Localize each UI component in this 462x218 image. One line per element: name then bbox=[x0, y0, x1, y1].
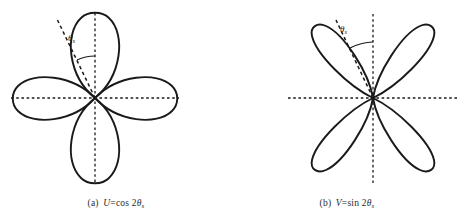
rose-petal-lower-right bbox=[373, 98, 434, 171]
caption-variable-a: U bbox=[101, 198, 110, 208]
angle-ray-dashed bbox=[57, 19, 95, 98]
rose-petal-lower-left bbox=[312, 98, 373, 171]
panel-b-sin: θs (b) V=sin 2θs bbox=[232, 0, 462, 218]
caption-theta-sub-b: s bbox=[372, 202, 375, 210]
theta-s-label-panel-b: θs bbox=[340, 24, 347, 35]
caption-variable-b: V bbox=[334, 198, 342, 208]
angle-arc bbox=[350, 42, 373, 48]
theta-subscript: s bbox=[72, 37, 75, 44]
polar-rose-cos-plot bbox=[0, 0, 232, 200]
caption-panel-b: (b) V=sin 2θs bbox=[232, 198, 462, 210]
theta-s-label-panel-a: θs bbox=[68, 33, 75, 44]
angle-arc bbox=[77, 56, 95, 60]
caption-function-b: sin bbox=[347, 198, 359, 208]
caption-panel-a: (a) U=cos 2θs bbox=[0, 198, 232, 210]
polar-rose-sin-plot bbox=[232, 0, 462, 200]
rose-petal-upper-right bbox=[373, 25, 434, 98]
caption-tag-b: (b) bbox=[320, 198, 332, 208]
theta-subscript: s bbox=[344, 28, 347, 35]
caption-function-a: cos bbox=[116, 198, 129, 208]
figure-root: θs (a) U=cos 2θs bbox=[0, 0, 462, 218]
caption-tag-a: (a) bbox=[88, 198, 99, 208]
caption-theta-sub-a: s bbox=[142, 202, 145, 210]
rose-petal-upper-left bbox=[312, 25, 373, 98]
panel-a-cos: θs (a) U=cos 2θs bbox=[0, 0, 232, 218]
